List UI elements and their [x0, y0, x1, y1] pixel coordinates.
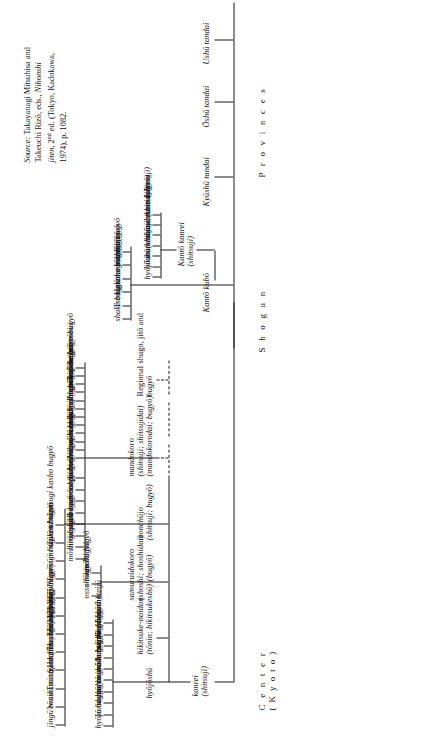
kanto-kanrei-tick	[152, 266, 160, 267]
shake-tick	[122, 318, 130, 319]
child-samuraidokoro: samuraidokoro (shoshi; shoshidai) (bugyō…	[126, 535, 153, 600]
hyojoshu-tick	[103, 725, 112, 726]
node-kanto-kubo-label: Kantō kubō	[201, 273, 210, 313]
shake-tick	[122, 264, 130, 265]
child-monchujo-line1: monchūjo	[135, 484, 144, 540]
child-mandokoro-line3: (mandokorodai; bugyō)	[144, 395, 153, 476]
mandokoro-b-tick	[75, 400, 84, 401]
hyojoshu-tick	[103, 622, 112, 623]
monchujo-tick	[55, 651, 64, 652]
shake-item: zōei bugyō	[112, 217, 121, 254]
kanto-kanrei-riser-down	[196, 249, 214, 250]
kanto-kanrei-tick	[152, 276, 160, 277]
node-kanrei-line2: (shitsuji)	[199, 665, 208, 696]
mandokoro-b-tick	[75, 432, 84, 433]
tick-kyushu-tandai	[214, 176, 233, 177]
hyojoshu-tick	[103, 657, 112, 658]
child-samuraidokoro-line3: (bugyō)	[144, 535, 153, 600]
shake-tick	[122, 251, 130, 252]
mandokoro-b-tick	[75, 416, 84, 417]
kanto-kanrei-tick	[152, 224, 160, 225]
tier-caption-center: C e n t e r ( K y o t o )	[256, 650, 276, 710]
mandokoro-a-tick	[75, 524, 84, 525]
tick-kanrei	[214, 681, 233, 682]
tick-kanto-kubo	[214, 284, 233, 285]
monchujo-tick	[55, 706, 64, 707]
kanto-kanrei-tick	[152, 214, 160, 215]
node-kanto-kanrei-line1: Kantō kanrei	[176, 222, 185, 266]
monchujo-tick	[55, 633, 64, 634]
riser-regional	[156, 379, 168, 380]
child-mandokoro: mandokoro (shitsuji; shitsujidai) (mando…	[126, 395, 153, 476]
node-kanto-kanrei: Kantō kanrei (shitsuji)	[176, 222, 194, 266]
mandokoro-b-tick	[75, 391, 84, 392]
mandokoro-a-tick	[75, 501, 84, 502]
kanrei-riser	[168, 681, 190, 682]
node-kyushu-tandai: Kyūshū tandai	[201, 157, 210, 206]
shake-tick	[122, 278, 130, 279]
tier-provinces-line1: P r o v i n c e s	[256, 86, 266, 177]
node-kanrei: kanrei (shitsuji)	[190, 665, 208, 696]
tick-ushu-tandai	[214, 39, 233, 40]
hyojoshu-tick	[103, 691, 112, 692]
source-note: Source: Takayanagi Mitsuhisa and Takeuch…	[22, 44, 68, 162]
monchujo-tick	[55, 669, 64, 670]
monchujo-tick	[55, 542, 64, 543]
rotated-figure-canvas: C e n t e r ( K y o t o ) S h o g u n P …	[0, 0, 437, 740]
riser-monchujo	[156, 523, 168, 524]
tier-caption-shogun: S h o g u n	[256, 289, 266, 352]
riser-hikitsuke-naidan	[156, 637, 168, 638]
kanto-kanrei-tick	[152, 245, 160, 246]
hyojoshu-tick	[103, 634, 112, 635]
samuraidokoro-tick	[91, 583, 100, 584]
kanrei-bus-dash-2	[168, 402, 169, 436]
child-monchujo-line2: (shitsuji; bugyō)	[144, 484, 153, 540]
kanrei-bus-dash-3	[168, 360, 169, 394]
mandokoro-b-item: odaikan mairi	[65, 322, 74, 370]
monchujo-tick	[55, 597, 64, 598]
hyojoshu-tick	[103, 668, 112, 669]
mandokoro-b-tick	[75, 367, 84, 368]
kanrei-bus-solid	[168, 478, 169, 682]
mandokoro-b-tick	[75, 424, 84, 425]
chart-stage: C e n t e r ( K y o t o ) S h o g u n P …	[0, 0, 437, 740]
node-kanto-kubo: Kantō kubō	[201, 273, 210, 313]
monchujo-tick	[55, 578, 64, 579]
hyojoshu-tick	[103, 645, 112, 646]
riser-samuraidokoro	[156, 581, 168, 582]
child-hyojoshu: hyōjōshū	[144, 667, 153, 698]
node-kanrei-line1: kanrei	[190, 665, 199, 696]
samuraidokoro-bus	[100, 565, 101, 597]
monchujo-tick	[55, 615, 64, 616]
monchujo-item: shukutsugi kasho bugyō	[45, 445, 54, 526]
child-hyojoshu-label: hyōjōshū	[144, 667, 153, 698]
child-regional: Regional shugo, jitō and bugyō	[135, 312, 153, 396]
mandokoro-b-tick	[75, 408, 84, 409]
monchujo-tick	[55, 724, 64, 725]
samuraidokoro-riser	[100, 581, 156, 582]
shake-branch-bus	[130, 246, 131, 320]
kanto-kanrei-riser-up	[160, 249, 176, 250]
monchujo-tick	[55, 688, 64, 689]
source-heading: Source:	[22, 136, 31, 162]
tier-shogun-line1: S h o g u n	[256, 289, 266, 352]
node-ushu-tandai: Ushū tandai	[201, 22, 210, 64]
mandokoro-b-tick	[75, 449, 84, 450]
monchujo-tick	[55, 524, 64, 525]
source-edition-ordinal: nd	[45, 133, 51, 139]
child-mandokoro-line1: mandokoro	[126, 395, 135, 476]
hyojoshu-tick	[103, 679, 112, 680]
samuraidokoro-tick	[91, 572, 100, 573]
mandokoro-b-tick	[75, 383, 84, 384]
tier-center-line1: C e n t e r	[256, 651, 266, 710]
node-kyushu-tandai-label: Kyūshū tandai	[201, 157, 210, 206]
riser-mandokoro	[156, 457, 168, 458]
node-ushu-tandai-label: Ushū tandai	[201, 22, 210, 64]
mandokoro-a-tick	[75, 489, 84, 490]
child-regional-line2: bugyō	[144, 312, 153, 396]
kanto-kanrei-item: (shitsuji)	[142, 186, 151, 217]
shake-branch-riser	[130, 284, 214, 285]
tick-oshu-tandai	[214, 101, 233, 102]
mandokoro-b-tick	[75, 457, 84, 458]
child-samuraidokoro-line1: samuraidokoro	[126, 535, 135, 600]
